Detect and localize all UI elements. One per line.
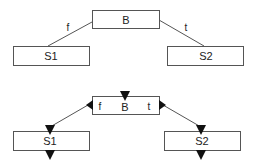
node-s2-bottom[interactable]: S2 bbox=[165, 132, 241, 151]
node-s1-bottom[interactable]: S1 bbox=[14, 132, 90, 151]
edge-false-bottom bbox=[50, 105, 88, 127]
node-s2-bottom-label: S2 bbox=[195, 135, 208, 147]
node-b-bottom-label: B bbox=[121, 101, 128, 113]
output-port-arrow-s1 bbox=[45, 150, 55, 160]
node-b-top[interactable]: B bbox=[93, 11, 160, 29]
diagram-bottom: B f t S1 S2 bbox=[14, 91, 241, 160]
edge-true-top bbox=[159, 20, 204, 46]
diagram-top: B S1 S2 f t bbox=[14, 11, 244, 66]
node-b-top-label: B bbox=[122, 14, 129, 26]
edge-true-bottom bbox=[163, 105, 201, 127]
output-port-arrow-s2 bbox=[196, 150, 206, 160]
node-s1-top-label: S1 bbox=[44, 50, 57, 62]
node-s1-bottom-label: S1 bbox=[43, 135, 56, 147]
edge-label-f-top: f bbox=[67, 22, 70, 33]
edge-label-t-top: t bbox=[185, 22, 188, 33]
output-port-arrow-f bbox=[86, 100, 93, 110]
port-label-t: t bbox=[148, 101, 151, 112]
port-label-f: f bbox=[99, 101, 102, 112]
node-s2-top[interactable]: S2 bbox=[168, 47, 244, 66]
output-port-arrow-t bbox=[159, 100, 166, 110]
diagram-canvas: B S1 S2 f t B f t S1 S2 bbox=[0, 0, 255, 165]
node-b-bottom[interactable]: B f t bbox=[93, 97, 160, 115]
node-s1-top[interactable]: S1 bbox=[14, 47, 90, 66]
node-s2-top-label: S2 bbox=[199, 50, 212, 62]
edge-false-top bbox=[48, 22, 92, 46]
